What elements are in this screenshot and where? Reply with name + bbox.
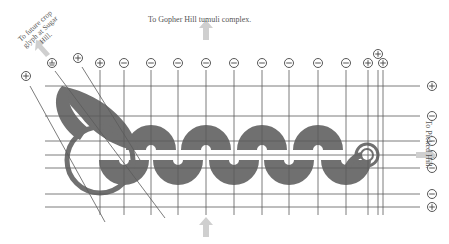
plus-marker-icon xyxy=(22,72,31,81)
minus-marker-icon xyxy=(120,59,129,68)
label-gopher-hill: To Gopher Hill tumuli complex. xyxy=(148,16,251,24)
minus-marker-icon xyxy=(428,190,437,199)
ground-marker-icon xyxy=(48,59,57,68)
minus-marker-icon xyxy=(147,59,156,68)
minus-marker-icon xyxy=(285,59,294,68)
minus-marker-icon xyxy=(258,59,267,68)
minus-marker-icon xyxy=(202,59,211,68)
minus-marker-icon xyxy=(230,59,239,68)
plus-marker-icon xyxy=(364,59,373,68)
plus-marker-icon xyxy=(428,82,437,91)
diagram-canvas xyxy=(0,0,449,244)
plus-marker-icon xyxy=(374,50,383,59)
minus-marker-icon xyxy=(314,59,323,68)
label-picked-hill: To Picked Hill. xyxy=(424,120,432,169)
plus-marker-icon xyxy=(379,59,388,68)
crop-glyph-diagram: To Gopher Hill tumuli complex. To future… xyxy=(0,0,449,244)
plus-marker-icon xyxy=(96,59,105,68)
minus-marker-icon xyxy=(342,59,351,68)
plus-marker-icon xyxy=(74,54,83,63)
plus-marker-icon xyxy=(428,203,437,212)
arrow-up-bottom-icon xyxy=(199,217,213,237)
minus-marker-icon xyxy=(174,59,183,68)
